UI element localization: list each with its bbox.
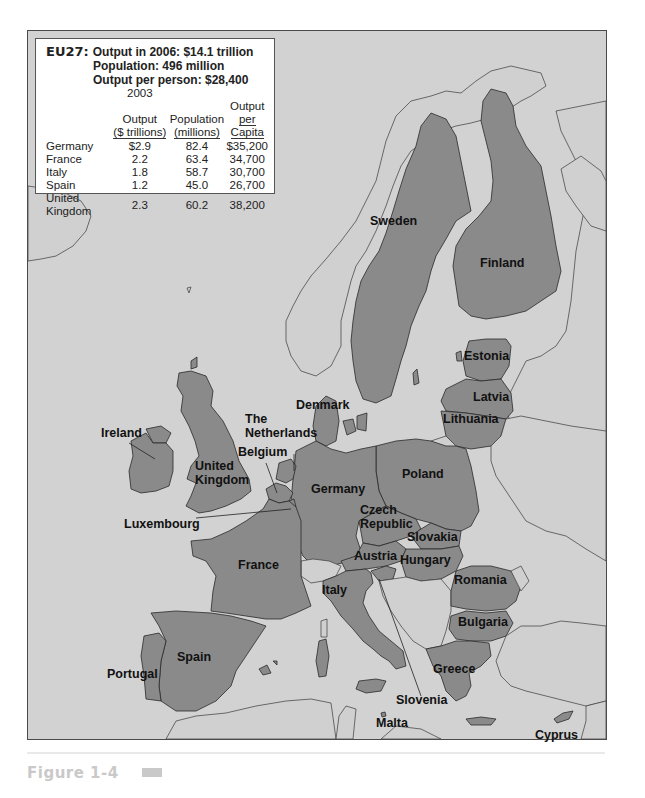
label-italy: Italy — [322, 583, 347, 597]
table-year: 2003 — [112, 87, 167, 100]
row-population: 45.0 — [167, 179, 226, 192]
row-country: Germany — [46, 139, 112, 153]
land-corsica[interactable] — [321, 619, 327, 637]
row-output: $2.9 — [112, 139, 167, 153]
table-row: Spain 1.2 45.0 26,700 — [46, 179, 268, 192]
label-hungary: Hungary — [400, 553, 451, 567]
label-luxembourg: Luxembourg — [124, 517, 200, 531]
row-per-capita: 38,200 — [226, 192, 268, 218]
row-output: 2.3 — [112, 192, 167, 218]
eu27-info-box: EU27:Output in 2006: $14.1 trillion Popu… — [35, 38, 275, 194]
label-malta: Malta — [376, 716, 408, 730]
row-population: 58.7 — [167, 166, 226, 179]
row-population: 60.2 — [167, 192, 226, 218]
label-spain: Spain — [177, 650, 211, 664]
table-row: Germany $2.9 82.4 $35,200 — [46, 139, 268, 153]
row-per-capita: 30,700 — [226, 166, 268, 179]
label-czech-republic-1: Czech — [360, 503, 397, 517]
label-united-kingdom-2: Kingdom — [195, 473, 249, 487]
label-sweden: Sweden — [370, 214, 417, 228]
row-output: 1.8 — [112, 166, 167, 179]
row-output: 1.2 — [112, 179, 167, 192]
figure-caption: Figure 1-4 — [27, 764, 119, 782]
row-country: Spain — [46, 179, 112, 192]
label-belgium: Belgium — [238, 445, 287, 459]
country-greece-crete — [466, 717, 496, 725]
row-per-capita: 34,700 — [226, 153, 268, 166]
label-denmark: Denmark — [296, 398, 350, 412]
label-austria: Austria — [354, 549, 397, 563]
row-country: United Kingdom — [46, 192, 112, 218]
label-finland: Finland — [480, 256, 524, 270]
label-poland: Poland — [402, 467, 444, 481]
label-czech-republic-2: Republic — [360, 517, 413, 531]
country-estonia-islet — [456, 351, 462, 361]
eu27-summary: EU27:Output in 2006: $14.1 trillion — [46, 45, 266, 59]
header-rule — [27, 752, 605, 754]
column-header-output: Output($ trillions) — [112, 100, 167, 139]
label-latvia: Latvia — [473, 390, 509, 404]
label-portugal: Portugal — [107, 667, 158, 681]
label-romania: Romania — [454, 573, 507, 587]
label-bulgaria: Bulgaria — [458, 615, 508, 629]
label-ireland: Ireland — [101, 426, 142, 440]
country-netherlands — [276, 459, 296, 483]
row-per-capita: $35,200 — [226, 139, 268, 153]
row-country: France — [46, 153, 112, 166]
eu27-per-person-line: Output per person: $28,400 — [46, 73, 266, 87]
column-header-population: Population(millions) — [167, 100, 226, 139]
label-the-netherlands-1: The — [245, 412, 267, 426]
label-the-netherlands-2: Netherlands — [245, 426, 317, 440]
eu27-output-line: Output in 2006: $14.1 trillion — [93, 45, 254, 59]
label-germany: Germany — [311, 482, 365, 496]
table-row: France 2.2 63.4 34,700 — [46, 153, 268, 166]
label-lithuania: Lithuania — [443, 412, 499, 426]
eu27-population-line: Population: 496 million — [46, 59, 266, 73]
label-slovakia: Slovakia — [407, 530, 458, 544]
country-stats-table: 2003 Output($ trillions) Population(mill… — [46, 87, 268, 218]
row-per-capita: 26,700 — [226, 179, 268, 192]
row-population: 63.4 — [167, 153, 226, 166]
label-slovenia: Slovenia — [396, 693, 447, 707]
table-row: United Kingdom 2.3 60.2 38,200 — [46, 192, 268, 218]
label-cyprus: Cyprus — [535, 728, 578, 742]
row-population: 82.4 — [167, 139, 226, 153]
table-row: Italy 1.8 58.7 30,700 — [46, 166, 268, 179]
column-header-per-capita: Outputper Capita — [226, 100, 268, 139]
figure-decoration-bar — [142, 768, 162, 777]
label-france: France — [238, 558, 279, 572]
label-greece: Greece — [433, 662, 475, 676]
row-output: 2.2 — [112, 153, 167, 166]
label-estonia: Estonia — [464, 349, 509, 363]
eu27-heading: EU27: — [46, 44, 89, 59]
label-united-kingdom-1: United — [195, 459, 234, 473]
row-country: Italy — [46, 166, 112, 179]
